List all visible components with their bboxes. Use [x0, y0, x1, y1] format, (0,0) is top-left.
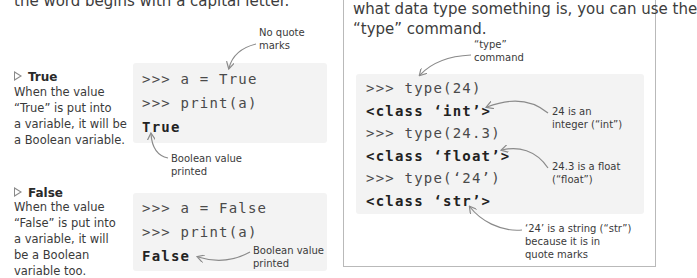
arrow-no-quote-icon — [229, 44, 256, 68]
arrow-false-output-icon — [198, 252, 250, 260]
arrow-str-icon — [470, 207, 522, 230]
arrow-type-command-icon — [420, 55, 471, 75]
arrow-true-output-icon — [151, 134, 168, 158]
arrow-float-icon — [502, 149, 548, 168]
arrow-int-icon — [487, 101, 548, 113]
